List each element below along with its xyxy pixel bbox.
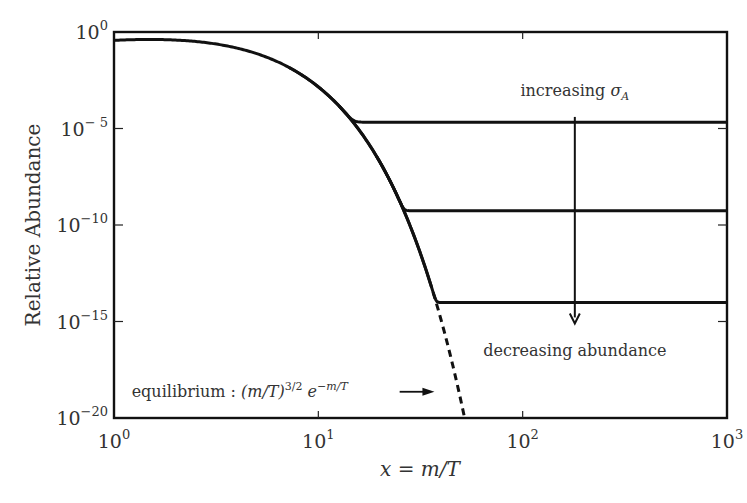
y-tick-label: 100 (76, 18, 108, 43)
x-tick-label: 100 (98, 427, 130, 452)
x-tick-label: 101 (302, 427, 334, 452)
y-tick-label: 10−10 (56, 211, 108, 236)
equilibrium-annotation: equilibrium : (m/T)3/2 e−m/T (132, 380, 350, 401)
x-tick-label: 102 (506, 427, 538, 452)
y-tick-labels: 10010− 510−1010−1510−20 (56, 18, 108, 429)
freeze-out-curve (289, 67, 727, 122)
equilibrium-curve (114, 39, 430, 280)
x-tick-label: 103 (711, 427, 743, 452)
y-tick-label: 10−20 (56, 404, 108, 429)
y-tick-label: 10− 5 (61, 115, 108, 140)
annotations: increasing σAdecreasing abundanceequilib… (132, 81, 667, 401)
x-tick-labels: 100101102103 (98, 427, 743, 452)
x-axis-label: x = m/T (380, 457, 461, 481)
decreasing-annotation: decreasing abundance (483, 341, 666, 360)
increasing-annotation: increasing σA (520, 81, 629, 103)
abundance-chart: 100101102103 10010− 510−1010−1510−20 x =… (0, 0, 747, 503)
y-axis-label: Relative Abundance (21, 124, 45, 327)
freeze-out-curve (376, 156, 727, 302)
abundance-curves (114, 39, 727, 418)
arrow-right-icon (422, 388, 434, 396)
y-tick-label: 10−15 (56, 308, 108, 333)
